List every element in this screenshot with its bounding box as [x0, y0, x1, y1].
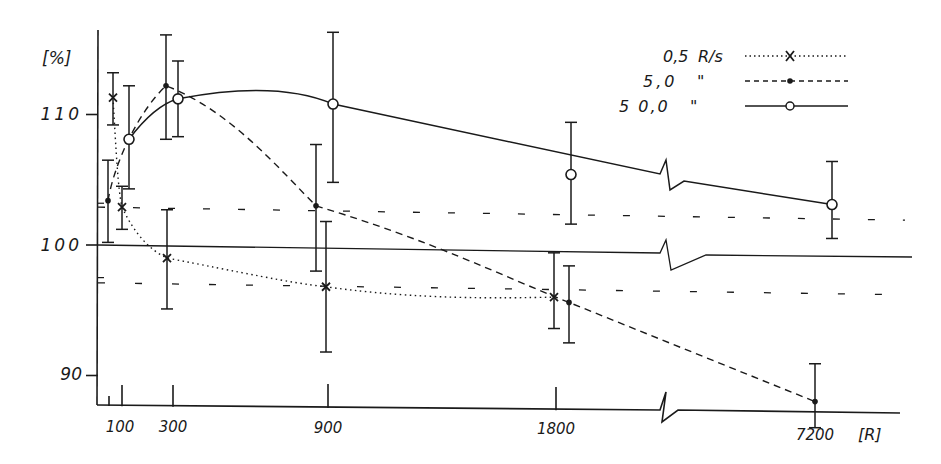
legend-unit-1: ": [697, 72, 704, 91]
data-point-circle: [173, 94, 183, 104]
legend-marker-dot: [787, 78, 793, 84]
reference-lines: [98, 207, 912, 295]
legend-label-2: 5 0,0: [619, 97, 670, 116]
series-curves: [108, 86, 832, 402]
x-tick-label-100: 100: [106, 418, 135, 436]
legend-unit-0: R/s: [698, 47, 723, 66]
y-axis-line: [97, 30, 98, 405]
y-tick-label-90: 90: [60, 364, 82, 384]
data-point-circle: [328, 99, 338, 109]
reference-line-upper: [98, 207, 905, 220]
x-tick-label-7200: 7200: [796, 426, 834, 444]
data-point-circle: [566, 170, 576, 180]
reference-line-100: [98, 240, 912, 270]
legend-marker-circle: [786, 102, 794, 110]
legend-marker-x: [786, 51, 794, 61]
data-point-dot: [812, 399, 818, 405]
x-axis-label: [R]: [858, 425, 882, 444]
y-tick-label-100: 100: [41, 235, 82, 255]
legend: 0,5 R/s 5,0 " 5 0,0 ": [619, 47, 848, 116]
data-point-dot: [105, 198, 111, 204]
legend-label-1: 5,0: [643, 72, 677, 91]
legend-label-0: 0,5: [663, 47, 688, 66]
data-point-circle: [827, 200, 837, 210]
data-point-dot: [566, 300, 572, 306]
x-axis-line: [97, 392, 900, 422]
data-point-dot: [313, 203, 319, 209]
x-tick-label-900: 900: [314, 419, 343, 437]
error-bars: [102, 32, 838, 427]
x-tick-label-300: 300: [159, 418, 188, 436]
x-tick-label-1800: 1800: [537, 420, 575, 438]
y-tick-label-110: 110: [41, 104, 82, 124]
reference-line-lower: [98, 283, 910, 295]
data-point-dot: [163, 83, 169, 89]
data-point-circle: [124, 134, 134, 144]
series-curve-2: [129, 91, 832, 205]
markers: [105, 83, 837, 404]
axes: [86, 30, 900, 422]
y-axis-label: [%]: [42, 48, 71, 68]
legend-unit-2: ": [690, 97, 697, 116]
series-curve-1: [108, 86, 815, 402]
chart: [%] [R] 90 100 110 100 300 900 1800 7200…: [0, 0, 941, 464]
